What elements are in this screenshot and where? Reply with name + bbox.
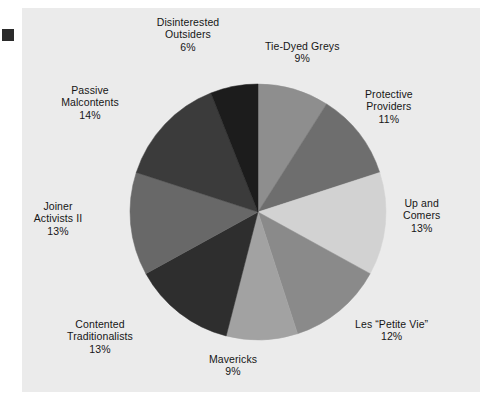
slice-label: ProtectiveProviders11% xyxy=(365,88,413,125)
slice-label-percent: 13% xyxy=(67,343,133,355)
pie-chart-figure: Tie-Dyed Greys9%ProtectiveProviders11%Up… xyxy=(0,0,503,408)
slice-label: ContentedTraditionalists13% xyxy=(67,318,133,355)
slice-label: JoinerActivists II13% xyxy=(34,200,82,237)
slice-label: PassiveMalcontents14% xyxy=(61,84,119,121)
pie-slice-group xyxy=(130,84,386,340)
slice-label-percent: 13% xyxy=(34,225,82,237)
slice-label-percent: 9% xyxy=(209,365,257,377)
slice-label-name: Outsiders xyxy=(157,28,220,40)
slice-label-percent: 6% xyxy=(157,41,220,53)
slice-label: Tie-Dyed Greys9% xyxy=(265,40,340,65)
slice-label-name: Joiner xyxy=(34,200,82,212)
slice-label-name: Contented xyxy=(67,318,133,330)
slice-label: Up andComers13% xyxy=(403,197,440,234)
slice-label-name: Providers xyxy=(365,100,413,112)
slice-label-percent: 13% xyxy=(403,222,440,234)
slice-label-name: Disinterested xyxy=(157,16,220,28)
slice-label-name: Traditionalists xyxy=(67,330,133,342)
slice-label-name: Comers xyxy=(403,209,440,221)
slice-label-name: Les “Petite Vie” xyxy=(355,318,428,330)
slice-label-name: Passive xyxy=(61,84,119,96)
slice-label-percent: 12% xyxy=(355,330,428,342)
slice-label-name: Mavericks xyxy=(209,353,257,365)
slice-label: DisinterestedOutsiders6% xyxy=(157,16,220,53)
slice-label: Mavericks9% xyxy=(209,353,257,378)
slice-label-name: Malcontents xyxy=(61,96,119,108)
slice-label-percent: 11% xyxy=(365,113,413,125)
slice-label-name: Tie-Dyed Greys xyxy=(265,40,340,52)
slice-label-percent: 9% xyxy=(265,52,340,64)
slice-label: Les “Petite Vie”12% xyxy=(355,318,428,343)
slice-label-percent: 14% xyxy=(61,109,119,121)
slice-label-name: Activists II xyxy=(34,212,82,224)
slice-label-name: Up and xyxy=(403,197,440,209)
slice-label-name: Protective xyxy=(365,88,413,100)
